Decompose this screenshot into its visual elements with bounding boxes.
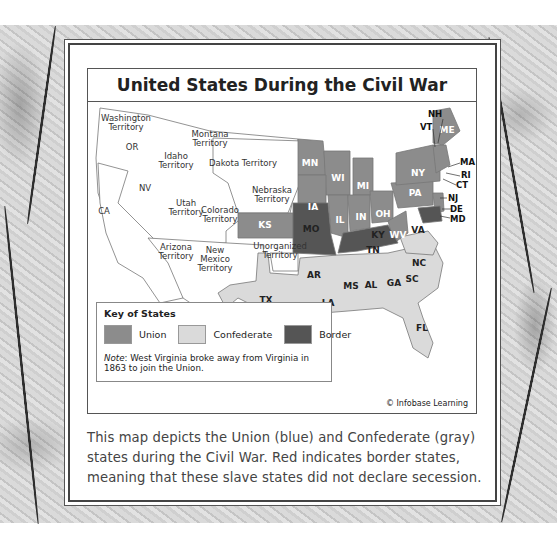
svg-text:MO: MO <box>303 224 320 234</box>
svg-text:WI: WI <box>331 173 344 183</box>
legend-title: Key of States <box>104 308 176 319</box>
legend-swatch-confederate <box>178 325 206 344</box>
svg-text:MD: MD <box>450 214 466 224</box>
figure-panel: United States During the Civil War <box>68 43 497 502</box>
legend-label-border: Border <box>319 329 351 340</box>
legend-swatch-union <box>104 325 132 344</box>
svg-text:Territory: Territory <box>253 194 289 204</box>
svg-text:Territory: Territory <box>107 122 143 132</box>
svg-text:NJ: NJ <box>448 193 458 203</box>
svg-text:MA: MA <box>460 157 475 167</box>
svg-text:CA: CA <box>98 206 110 216</box>
map-title: United States During the Civil War <box>88 69 476 102</box>
svg-text:MN: MN <box>302 158 319 168</box>
svg-text:IN: IN <box>356 212 367 222</box>
svg-text:IA: IA <box>308 202 318 212</box>
svg-text:OH: OH <box>375 209 390 219</box>
marble-crack <box>26 26 57 224</box>
svg-text:NV: NV <box>139 183 151 193</box>
svg-text:IL: IL <box>335 215 344 225</box>
map-frame: United States During the Civil War <box>87 68 477 414</box>
svg-text:MI: MI <box>357 181 369 191</box>
note-prefix: Note <box>104 353 125 363</box>
svg-text:TN: TN <box>366 245 380 255</box>
state-shape <box>418 206 442 223</box>
svg-text:AR: AR <box>307 270 321 280</box>
map-credit: © Infobase Learning <box>386 399 468 408</box>
legend-label-confederate: Confederate <box>213 329 272 340</box>
svg-text:Territory: Territory <box>201 214 237 224</box>
marble-crack <box>500 287 553 522</box>
svg-text:AL: AL <box>365 280 378 290</box>
legend-items: Union Confederate Border <box>104 325 363 344</box>
svg-text:Territory: Territory <box>157 251 193 261</box>
svg-text:WV: WV <box>390 230 407 240</box>
map-legend: Key of States Union Confederate Border N… <box>96 302 332 382</box>
svg-text:Territory: Territory <box>157 160 193 170</box>
svg-text:PA: PA <box>409 188 422 198</box>
svg-text:KY: KY <box>371 230 385 240</box>
svg-text:Dakota Territory: Dakota Territory <box>209 158 277 168</box>
svg-text:NH: NH <box>428 109 442 119</box>
svg-text:FL: FL <box>416 323 428 333</box>
svg-text:DE: DE <box>450 204 463 214</box>
svg-text:VT: VT <box>420 122 433 132</box>
marble-crack <box>3 206 39 525</box>
svg-text:NC: NC <box>412 258 427 268</box>
svg-text:GA: GA <box>387 278 401 288</box>
svg-text:CT: CT <box>456 180 468 190</box>
legend-swatch-border <box>284 325 312 344</box>
legend-note: Note: West Virginia broke away from Virg… <box>104 353 329 373</box>
svg-text:Territory: Territory <box>261 250 297 260</box>
svg-text:OR: OR <box>126 142 139 152</box>
note-text: : West Virginia broke away from Virginia… <box>104 353 309 373</box>
svg-text:KS: KS <box>258 220 271 230</box>
legend-label-union: Union <box>139 329 166 340</box>
state-shape <box>298 139 326 175</box>
figure-caption: This map depicts the Union (blue) and Co… <box>87 428 482 488</box>
svg-text:Territory: Territory <box>167 207 203 217</box>
svg-text:VA: VA <box>411 225 424 235</box>
svg-text:MS: MS <box>343 281 358 291</box>
svg-text:RI: RI <box>461 170 471 180</box>
state-shape <box>298 175 326 203</box>
svg-text:Territory: Territory <box>191 138 227 148</box>
state-shape <box>433 145 450 173</box>
svg-text:NY: NY <box>411 168 426 178</box>
svg-text:SC: SC <box>405 274 418 284</box>
svg-text:Territory: Territory <box>196 263 232 273</box>
